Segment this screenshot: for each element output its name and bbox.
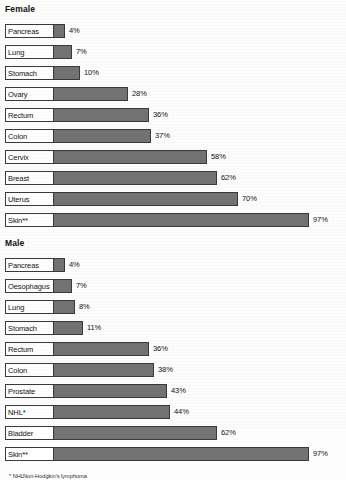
row-value: 4% xyxy=(69,26,80,36)
row-bar xyxy=(54,447,309,461)
row-label-box: Pancreas xyxy=(5,24,54,38)
row-label-box: Ovary xyxy=(5,87,54,101)
row-label-box: Uterus xyxy=(5,192,54,206)
row-label: Prostate xyxy=(8,387,35,397)
row-label: Uterus xyxy=(8,195,30,205)
row-value: 38% xyxy=(158,365,173,375)
row-bar xyxy=(54,321,83,335)
row-bar xyxy=(54,66,80,80)
row-label: Oesophagus xyxy=(8,282,50,292)
row-label-box: Cervix xyxy=(5,150,54,164)
row-label: Ovary xyxy=(8,90,28,100)
row-value: 7% xyxy=(76,47,87,57)
row-bar xyxy=(54,279,72,293)
row-label: Colon xyxy=(8,132,27,142)
row-label: Stomach xyxy=(8,69,37,79)
row-label: Skin** xyxy=(8,450,28,460)
row-value: 11% xyxy=(87,323,101,333)
row-label-box: Rectum xyxy=(5,108,54,122)
row-value: 62% xyxy=(221,428,236,438)
row-label-box: Rectum xyxy=(5,342,54,356)
row-label-box: Lung xyxy=(5,300,54,314)
row-label: Pancreas xyxy=(8,27,39,37)
row-label-box: Colon xyxy=(5,363,54,377)
row-label: Rectum xyxy=(8,111,33,121)
row-label: Colon xyxy=(8,366,27,376)
row-value: 10% xyxy=(84,68,99,78)
footnote-nhl: * NHLNon-Hodgkin's lymphoma xyxy=(9,473,87,480)
row-value: 58% xyxy=(211,152,226,162)
row-bar xyxy=(54,171,217,185)
section-title-female: Female xyxy=(5,4,35,14)
row-label-box: Skin** xyxy=(5,447,54,461)
row-value: 36% xyxy=(153,110,168,120)
row-bar xyxy=(54,405,170,419)
row-value: 97% xyxy=(313,215,328,225)
section-title-male: Male xyxy=(5,238,25,248)
row-label-box: Stomach xyxy=(5,66,54,80)
row-label-box: Pancreas xyxy=(5,258,54,272)
row-value: 4% xyxy=(69,260,80,270)
row-label: Breast xyxy=(8,174,29,184)
row-bar xyxy=(54,258,65,272)
row-value: 44% xyxy=(174,407,189,417)
row-label-box: Bladder xyxy=(5,426,54,440)
row-bar xyxy=(54,87,128,101)
row-value: 7% xyxy=(76,281,87,291)
row-bar xyxy=(54,300,75,314)
row-value: 37% xyxy=(155,131,170,141)
row-label: Bladder xyxy=(8,429,33,439)
row-value: 62% xyxy=(221,173,236,183)
row-label: Cervix xyxy=(8,153,29,163)
row-bar xyxy=(54,24,65,38)
row-label: Rectum xyxy=(8,345,33,355)
row-label-box: Breast xyxy=(5,171,54,185)
row-value: 43% xyxy=(171,386,186,396)
row-bar xyxy=(54,426,217,440)
row-bar xyxy=(54,129,151,143)
row-label: Skin** xyxy=(8,216,28,226)
row-bar xyxy=(54,363,154,377)
row-label-box: Colon xyxy=(5,129,54,143)
row-label-box: Oesophagus xyxy=(5,279,54,293)
row-label-box: Stomach xyxy=(5,321,54,335)
row-label-box: Lung xyxy=(5,45,54,59)
row-bar xyxy=(54,108,149,122)
row-label: Lung xyxy=(8,48,24,58)
row-label-box: NHL* xyxy=(5,405,54,419)
row-bar xyxy=(54,384,167,398)
row-label-box: Skin** xyxy=(5,213,54,227)
row-bar xyxy=(54,213,309,227)
footnote-mark: * NHL xyxy=(9,473,23,480)
row-label: Pancreas xyxy=(8,261,39,271)
row-value: 70% xyxy=(242,194,257,204)
row-label: Stomach xyxy=(8,324,37,334)
row-value: 8% xyxy=(79,302,90,312)
row-value: 28% xyxy=(132,89,147,99)
row-bar xyxy=(54,45,72,59)
row-bar xyxy=(54,192,238,206)
row-value: 97% xyxy=(313,449,328,459)
row-label: Lung xyxy=(8,303,24,313)
row-value: 36% xyxy=(153,344,168,354)
row-label: NHL* xyxy=(8,408,26,418)
footnote-text: Non-Hodgkin's lymphoma xyxy=(23,473,87,479)
row-bar xyxy=(54,342,149,356)
row-bar xyxy=(54,150,207,164)
row-label-box: Prostate xyxy=(5,384,54,398)
